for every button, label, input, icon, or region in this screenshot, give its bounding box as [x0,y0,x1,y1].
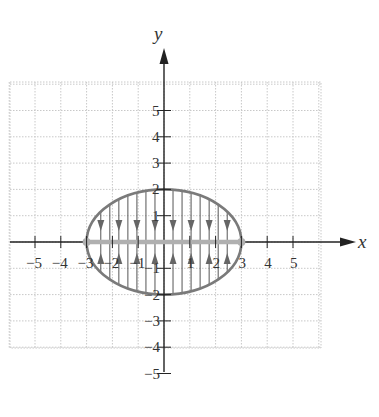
y-tick-label: 2 [152,181,160,197]
y-axis-arrow-icon [160,48,169,64]
y-tick-label: 3 [152,155,160,171]
arrow-down-icon [115,220,122,231]
y-tick-label: 5 [152,103,160,119]
x-tick-label: −1 [129,255,145,271]
arrow-up-icon [206,253,213,264]
arrow-down-icon [170,220,177,231]
arrow-down-icon [97,220,104,231]
ellipse-diagram: −5−4−3−2−112345−5−4−3−2−112345 x y [0,0,379,417]
x-tick-label: 5 [290,255,298,271]
arrow-down-icon [224,220,231,231]
arrow-up-icon [224,253,231,264]
axes [10,48,356,372]
y-tick-label: −3 [144,313,160,329]
arrow-down-icon [133,220,140,231]
y-tick-label: −1 [144,260,160,276]
x-tick-label: 3 [238,255,246,271]
x-tick-label: −3 [78,255,94,271]
y-tick-label: −2 [144,287,160,303]
x-axis-label: x [357,231,367,252]
x-tick-label: −2 [103,255,119,271]
x-tick-label: −4 [52,255,68,271]
grid-border [10,82,321,348]
y-tick-label: 1 [152,208,160,224]
y-tick-label: −5 [144,366,160,382]
arrow-up-icon [170,253,177,264]
y-axis-label: y [152,23,163,44]
grid [9,82,321,348]
y-tick-label: 4 [152,129,160,145]
arrow-down-icon [206,220,213,231]
arrow-down-icon [188,220,195,231]
y-tick-label: −4 [144,339,160,355]
x-tick-label: 1 [187,255,195,271]
x-tick-label: −5 [26,255,42,271]
x-tick-label: 2 [213,255,221,271]
x-tick-label: 4 [264,255,272,271]
x-axis-arrow-icon [340,238,356,247]
